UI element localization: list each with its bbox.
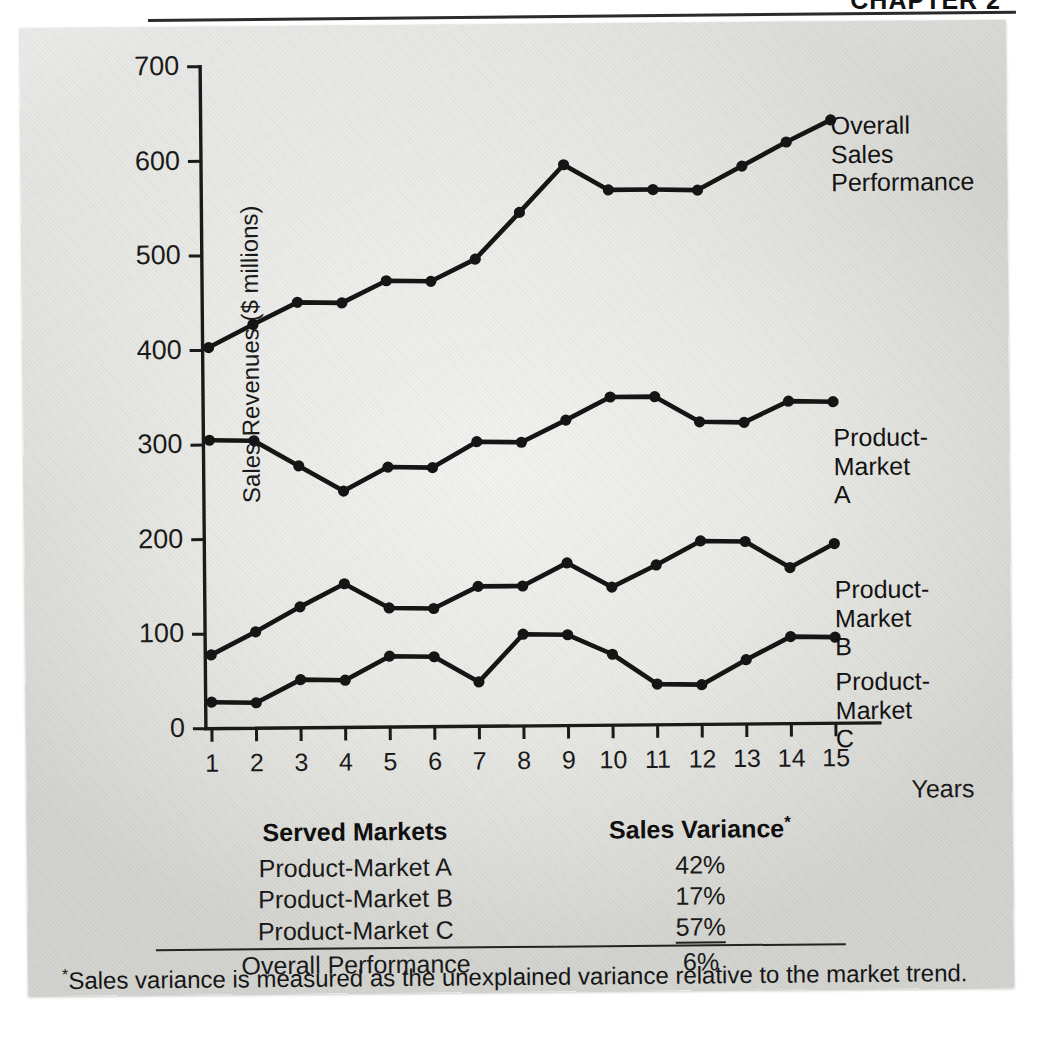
x-axis-tick-label: 13: [724, 746, 770, 771]
data-point-marker: [340, 675, 351, 686]
series-overall-sales-performance: [201, 114, 838, 353]
y-axis-tick-label: 400: [111, 337, 181, 365]
x-axis-tick-label: 5: [367, 749, 413, 774]
cell-served-market: Product-Market C: [156, 913, 556, 950]
data-point-marker: [293, 460, 304, 471]
sales-variance-table: Served Markets Sales Variance* Product-M…: [155, 811, 846, 982]
data-point-marker: [428, 603, 439, 614]
data-point-marker: [251, 697, 262, 708]
data-point-marker: [295, 674, 306, 685]
data-point-marker: [384, 602, 395, 613]
y-axis-tick-label: 500: [111, 242, 181, 270]
data-point-marker: [206, 697, 217, 708]
x-axis-tick-label: 2: [234, 750, 280, 775]
data-point-marker: [473, 676, 484, 687]
data-point-marker: [470, 254, 481, 265]
data-point-marker: [605, 391, 616, 402]
series-product-market-b: [205, 534, 841, 660]
figure-content: 0100200300400500600700 12345678910111213…: [20, 20, 1014, 997]
data-point-marker: [382, 461, 393, 472]
data-point-marker: [384, 651, 395, 662]
data-point-marker: [692, 184, 703, 195]
y-axis-tick-label: 200: [113, 526, 183, 554]
data-point-marker: [827, 396, 838, 407]
data-point-marker: [603, 184, 614, 195]
x-axis-title: Years: [911, 774, 974, 804]
data-point-marker: [558, 159, 569, 170]
y-axis-tick-label: 100: [114, 620, 184, 648]
data-point-marker: [203, 342, 214, 353]
data-point-marker: [783, 395, 794, 406]
series-line: [211, 631, 836, 703]
column-header-served-markets: Served Markets: [155, 814, 555, 855]
data-point-marker: [784, 562, 795, 573]
x-axis-tick-label: 7: [457, 748, 503, 773]
x-axis-tick-label: 12: [679, 746, 725, 771]
data-point-marker: [561, 557, 572, 568]
x-axis-tick-label: 3: [278, 750, 324, 775]
data-point-marker: [425, 276, 436, 287]
data-point-marker: [381, 275, 392, 286]
data-point-marker: [336, 297, 347, 308]
data-point-marker: [514, 207, 525, 218]
x-axis-tick-label: 1: [189, 750, 235, 775]
data-point-marker: [740, 536, 751, 547]
data-point-marker: [785, 631, 796, 642]
data-point-marker: [736, 160, 747, 171]
cell-served-market: Product-Market B: [155, 882, 555, 916]
figure-panel: 0100200300400500600700 12345678910111213…: [20, 20, 1014, 997]
y-axis-title: Sales Revenues ($ millions): [235, 174, 266, 534]
data-point-marker: [517, 580, 528, 591]
sales-variance-value: 42%: [675, 851, 725, 879]
sales-variance-value: 17%: [675, 882, 725, 910]
data-point-marker: [652, 678, 663, 689]
data-point-marker: [651, 559, 662, 570]
column-header-sales-variance: Sales Variance*: [555, 811, 845, 851]
x-axis-tick-label: 14: [769, 745, 815, 770]
data-point-marker: [517, 629, 528, 640]
series-label-product-market-b: Product- Market B: [835, 574, 930, 660]
series-line: [207, 120, 833, 348]
column-header-sales-variance-text: Sales Variance: [609, 814, 784, 844]
data-point-marker: [696, 679, 707, 690]
series-product-market-a: [203, 389, 839, 497]
data-point-marker: [649, 391, 660, 402]
y-axis-tick-label: 600: [110, 147, 180, 175]
sales-variance-value: 57%: [676, 913, 726, 944]
x-axis-tick-label: 6: [412, 749, 458, 774]
series-label-product-market-a: Product- Market A: [833, 422, 928, 508]
table-header-row: Served Markets Sales Variance*: [155, 811, 845, 854]
x-axis-tick-label: 8: [501, 748, 547, 773]
data-point-marker: [694, 416, 705, 427]
data-point-marker: [339, 578, 350, 589]
series-label-product-market-c: Product- Market C: [835, 666, 930, 752]
data-point-marker: [294, 601, 305, 612]
data-point-marker: [338, 485, 349, 496]
series-product-market-c: [205, 626, 841, 709]
data-point-marker: [472, 581, 483, 592]
data-point-marker: [204, 435, 215, 446]
cell-served-market: Product-Market A: [155, 851, 555, 885]
footnote-star-marker: *: [784, 813, 791, 832]
data-point-marker: [738, 417, 749, 428]
x-axis-tick-label: 11: [635, 747, 681, 772]
data-point-marker: [427, 462, 438, 473]
data-point-marker: [429, 651, 440, 662]
y-axis-tick-label: 0: [115, 715, 185, 743]
data-point-marker: [560, 414, 571, 425]
x-axis-tick-label: 4: [323, 749, 369, 774]
data-point-marker: [829, 538, 840, 549]
data-point-marker: [606, 581, 617, 592]
data-point-marker: [206, 649, 217, 660]
data-point-marker: [516, 437, 527, 448]
series-label-overall-sales-performance: Overall Sales Performance: [831, 110, 975, 197]
y-axis-tick-label: 700: [109, 53, 179, 81]
footnote-text: Sales variance is measured as the unexpl…: [68, 959, 967, 994]
data-point-marker: [647, 184, 658, 195]
line-chart: 0100200300400500600700 12345678910111213…: [130, 35, 897, 802]
cell-sales-variance: 17%: [555, 879, 845, 913]
data-point-marker: [471, 436, 482, 447]
cell-sales-variance: 42%: [555, 848, 845, 882]
data-point-marker: [781, 136, 792, 147]
data-point-marker: [607, 649, 618, 660]
